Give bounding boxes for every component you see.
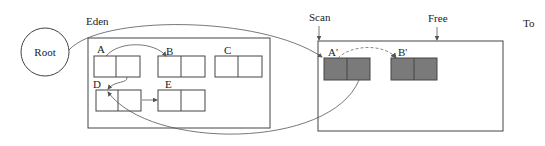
edge-root-to-a-prime <box>69 25 322 57</box>
object-b-prime-label: B' <box>398 46 407 58</box>
object-b-prime: B' <box>391 46 437 80</box>
object-a-prime-label: A' <box>328 46 338 58</box>
object-a-label: A <box>97 43 105 55</box>
object-d-label: D <box>93 78 101 90</box>
object-b: B <box>158 45 205 77</box>
eden-label: Eden <box>86 15 109 27</box>
free-pointer-label: Free <box>428 12 448 24</box>
edge-a-prime-to-d <box>108 80 359 134</box>
object-c: C <box>215 44 262 77</box>
to-space-label: To <box>523 17 535 29</box>
root-label: Root <box>34 46 55 58</box>
scan-pointer-label: Scan <box>309 11 331 23</box>
root-node: Root <box>21 28 69 76</box>
gc-diagram: Root Eden A B C D E To Scan <box>0 0 545 146</box>
object-a-prime: A' <box>324 46 370 80</box>
edge-a-to-b <box>106 45 166 56</box>
edge-a-to-d <box>108 77 127 89</box>
object-c-label: C <box>224 44 231 56</box>
eden-region <box>88 38 270 128</box>
to-space-region <box>318 41 503 131</box>
object-e-label: E <box>165 78 172 90</box>
object-e: E <box>158 78 205 111</box>
edge-a-prime-to-b-prime <box>338 48 396 59</box>
object-b-label: B <box>166 45 173 57</box>
